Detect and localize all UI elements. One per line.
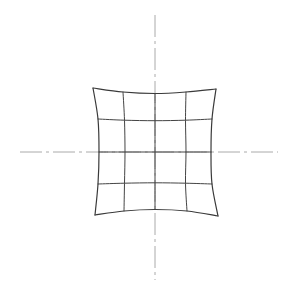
diagram-svg: [0, 0, 297, 297]
diagram-canvas: [0, 0, 297, 297]
canvas-background: [0, 0, 297, 297]
